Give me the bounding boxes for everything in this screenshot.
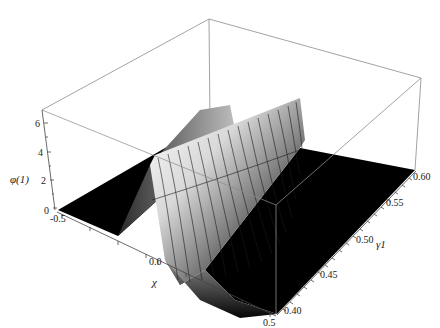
y-tick-0.55: 0.55	[386, 197, 404, 208]
x-tick-neg0.5: -0.5	[50, 213, 66, 224]
y-tick-0.40: 0.40	[284, 305, 302, 316]
surface-plot: 6 4 2 0 φ(1) -0.5 0.0 0.5 χ	[0, 0, 440, 328]
x-tick-0.0: 0.0	[149, 256, 162, 267]
z-axis-title: φ(1)	[10, 173, 29, 186]
z-tick-4: 4	[38, 147, 43, 158]
z-axis	[42, 110, 57, 210]
y-axis-title: γ1	[376, 238, 386, 250]
y-tick-0.45: 0.45	[320, 269, 338, 280]
y-tick-0.50: 0.50	[356, 234, 374, 245]
x-axis-title: χ	[151, 276, 158, 288]
z-tick-2: 2	[41, 175, 46, 186]
z-tick-6: 6	[35, 118, 40, 129]
z-tick-0: 0	[44, 205, 49, 216]
x-tick-0.5: 0.5	[263, 317, 276, 328]
y-tick-0.60: 0.60	[413, 171, 431, 182]
